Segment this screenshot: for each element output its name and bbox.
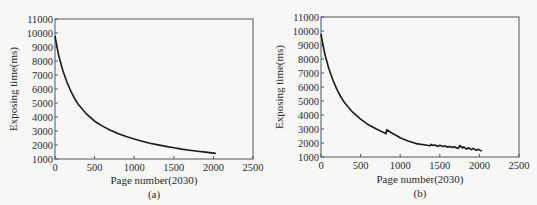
panel-caption-b: (b)	[414, 187, 427, 200]
x-tick-label: 1000	[390, 160, 411, 171]
y-tick-label: 6000	[298, 82, 319, 93]
y-tick-label: 3000	[298, 124, 319, 135]
x-axis-title-b: Page number(2030)	[376, 173, 463, 186]
plot-frame-a	[55, 19, 253, 159]
y-axis-title-a: Exposing time(ms)	[7, 47, 20, 131]
x-tick-label: 2500	[243, 162, 264, 173]
y-tick-label: 2000	[298, 138, 319, 149]
x-tick-label: 500	[87, 162, 103, 173]
x-tick-label: 2000	[203, 162, 224, 173]
y-tick-label: 2000	[32, 140, 53, 151]
x-tick-label: 0	[318, 160, 323, 171]
y-axis-b: 1000200030004000500060007000800090001000…	[293, 12, 324, 163]
y-tick-label: 10000	[293, 26, 319, 37]
y-tick-label: 8000	[298, 54, 319, 65]
x-tick-label: 2000	[469, 160, 490, 171]
y-tick-label: 7000	[32, 70, 53, 81]
y-tick-label: 1000	[298, 152, 319, 163]
y-tick-label: 3000	[32, 126, 53, 137]
y-tick-label: 11000	[293, 12, 319, 23]
chart-panel-b: 1000200030004000500060007000800090001000…	[273, 12, 530, 201]
y-tick-label: 7000	[298, 68, 319, 79]
y-tick-label: 4000	[298, 110, 319, 121]
y-tick-label: 1000	[32, 154, 53, 165]
panel-caption-a: (a)	[148, 188, 161, 201]
x-tick-label: 2500	[509, 160, 530, 171]
data-line-a	[55, 36, 216, 154]
figure: 1000200030004000500060007000800090001000…	[0, 0, 537, 205]
plot-frame-b	[321, 17, 519, 157]
y-tick-label: 4000	[32, 112, 53, 123]
y-tick-label: 5000	[32, 98, 53, 109]
chart-panel-a: 1000200030004000500060007000800090001000…	[7, 14, 264, 202]
y-tick-label: 11000	[27, 14, 53, 25]
data-line-b	[321, 34, 482, 151]
y-tick-label: 10000	[27, 28, 53, 39]
y-tick-label: 9000	[32, 42, 53, 53]
x-axis-title-a: Page number(2030)	[110, 174, 197, 187]
y-tick-label: 5000	[298, 96, 319, 107]
x-tick-label: 500	[353, 160, 369, 171]
y-tick-label: 6000	[32, 84, 53, 95]
x-tick-label: 1500	[163, 162, 184, 173]
y-tick-label: 9000	[298, 40, 319, 51]
y-tick-label: 8000	[32, 56, 53, 67]
x-tick-label: 1500	[429, 160, 450, 171]
x-tick-label: 1000	[124, 162, 145, 173]
y-axis-title-b: Exposing time(ms)	[273, 45, 286, 129]
y-axis-a: 1000200030004000500060007000800090001000…	[27, 14, 58, 165]
x-tick-label: 0	[52, 162, 57, 173]
